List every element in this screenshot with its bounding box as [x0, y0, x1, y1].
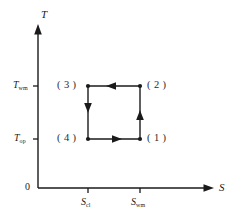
- process-4-1-arrowhead-icon: [112, 135, 122, 143]
- state-label-1: ( 1 ): [147, 133, 167, 144]
- state-point-markers: [86, 84, 142, 141]
- process-1-2-arrowhead-icon: [136, 110, 144, 120]
- state-1-point: [138, 137, 142, 141]
- y-axis-ticks: [33, 86, 38, 139]
- state-4-point: [86, 137, 90, 141]
- x-axis-label: S: [219, 182, 225, 193]
- diagram-canvas: [0, 0, 237, 224]
- y-tick-label-t-op-base: T: [14, 132, 20, 143]
- x-tick-label-s-cl-sub: cl: [86, 202, 91, 208]
- x-tick-label-s-wm: Swm: [131, 197, 145, 207]
- y-tick-label-t-op: Top: [14, 133, 26, 143]
- process-2-3-arrowhead-icon: [106, 82, 116, 90]
- y-axis: [34, 24, 42, 188]
- state-label-2: ( 2 ): [147, 80, 167, 91]
- ts-cycle-diagram: T S 0 Twm Top Scl Swm ( 1 ) ( 2 ) ( 3 ) …: [0, 0, 237, 224]
- origin-label: 0: [25, 182, 30, 192]
- x-tick-label-s-wm-sub: wm: [136, 202, 145, 208]
- process-3-4-arrowhead-icon: [84, 103, 92, 113]
- x-axis-ticks: [88, 188, 140, 193]
- state-label-3: ( 3 ): [57, 80, 77, 91]
- y-tick-label-t-wm-sub: wm: [19, 85, 28, 91]
- y-axis-label: T: [41, 9, 47, 20]
- cycle-path: [84, 82, 144, 143]
- x-tick-label-s-cl: Scl: [81, 197, 91, 207]
- x-axis-arrowhead-icon: [204, 184, 215, 192]
- y-tick-label-t-op-sub: op: [20, 138, 26, 144]
- state-3-point: [86, 84, 90, 88]
- y-tick-label-t-wm: Twm: [13, 80, 28, 90]
- x-axis: [38, 184, 214, 192]
- state-2-point: [138, 84, 142, 88]
- y-tick-label-t-wm-base: T: [13, 79, 19, 90]
- y-axis-arrowhead-icon: [34, 24, 42, 35]
- state-label-4: ( 4 ): [57, 133, 77, 144]
